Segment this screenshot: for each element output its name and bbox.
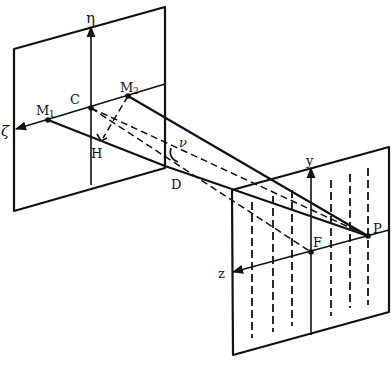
interference-geometry-diagram: η ζ C M 1 M 2 H D ν y z F P bbox=[0, 0, 392, 373]
point-c bbox=[88, 105, 94, 111]
angle-nu-label: ν bbox=[179, 135, 187, 150]
point-p bbox=[365, 233, 371, 239]
point-p-label: P bbox=[373, 221, 382, 236]
eta-label: η bbox=[86, 9, 95, 27]
point-m1-subscript: 1 bbox=[49, 109, 55, 119]
point-f-label: F bbox=[313, 235, 322, 250]
zeta-label: ζ bbox=[1, 122, 10, 140]
point-d-label: D bbox=[171, 177, 181, 192]
point-m2-subscript: 2 bbox=[133, 86, 139, 96]
y-label: y bbox=[305, 153, 314, 168]
angle-nu-arc bbox=[170, 148, 178, 162]
point-c-label: C bbox=[70, 92, 80, 107]
rays bbox=[48, 96, 368, 252]
ray-C-P bbox=[91, 108, 368, 236]
point-h-label: H bbox=[91, 146, 102, 161]
points bbox=[45, 93, 371, 255]
ray-M1-D-P bbox=[48, 120, 368, 236]
z-label: z bbox=[218, 266, 225, 281]
point-m1-label: M bbox=[36, 103, 49, 118]
point-f bbox=[308, 249, 314, 255]
point-m2-label: M bbox=[120, 80, 133, 95]
